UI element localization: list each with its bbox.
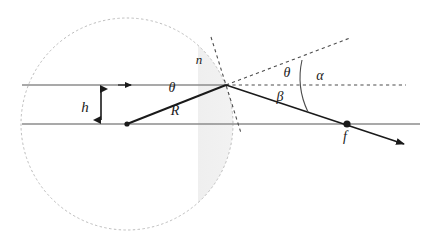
focal-point-marker	[343, 120, 350, 127]
label-h: h	[81, 99, 89, 115]
refracted-ray	[226, 85, 404, 144]
label-theta-incidence: θ	[169, 80, 176, 95]
label-theta-refraction: θ	[284, 65, 291, 80]
angle-arc	[300, 60, 308, 112]
label-n: n	[196, 52, 203, 67]
optics-figure: h n θ R θ α β f	[0, 0, 436, 248]
ray-diagram-svg: h n θ R θ α β f	[0, 0, 436, 248]
label-beta: β	[276, 89, 284, 104]
label-R: R	[170, 103, 180, 118]
label-f: f	[343, 129, 349, 144]
label-alpha: α	[316, 68, 324, 83]
circle-center-point	[124, 121, 129, 126]
